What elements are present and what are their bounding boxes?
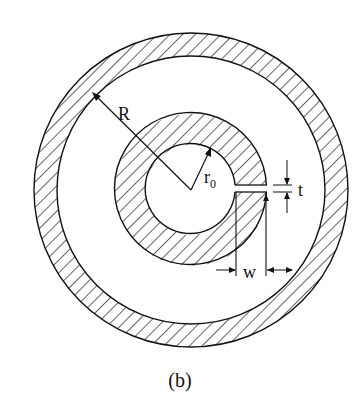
label-t: t bbox=[298, 180, 303, 200]
figure-caption: (b) bbox=[168, 369, 191, 392]
label-w: w bbox=[243, 262, 256, 282]
label-R: R bbox=[118, 104, 130, 124]
inner-ring bbox=[0, 0, 361, 416]
annular-slot-diagram: R r0 t w (b) bbox=[0, 0, 361, 416]
